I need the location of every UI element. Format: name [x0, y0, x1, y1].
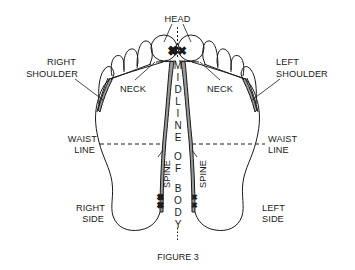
left-toe-base-line [204, 64, 247, 80]
right-spine-band [160, 61, 174, 212]
left-toe-3 [217, 49, 231, 70]
midline-letter: B [175, 183, 182, 194]
left-spine-x-mark-2: ✖ [191, 201, 198, 210]
midline-letter: F [175, 163, 181, 174]
waist-label-right: LINE [74, 145, 95, 155]
waist-label-left: WAIST [268, 134, 298, 144]
left-toe-4 [231, 55, 244, 76]
right-foot: ✖ ✖ ✖ [96, 35, 178, 230]
waist-label-right: WAIST [68, 134, 98, 144]
left-spine-band [181, 61, 195, 212]
midline-letter: L [175, 96, 181, 107]
right-side-label: RIGHT [76, 203, 105, 213]
right-shoulder-label: SHOULDER [26, 69, 78, 79]
neck-label-right: NECK [120, 84, 147, 94]
right-toe-4 [111, 55, 124, 76]
right-shoulder-label: RIGHT [47, 57, 76, 67]
right-side-label: SIDE [82, 214, 104, 224]
right-spine-x-mark-2: ✖ [157, 201, 164, 210]
reflexology-foot-diagram: ✖ ✖ ✖ ✖ ✖ ✖ M I D L I N E O F B O D Y [0, 0, 355, 270]
midline-letter: Y [175, 219, 182, 230]
spine-label-left: SPINE [198, 160, 208, 188]
right-toe-2 [137, 41, 152, 66]
figure-caption: FIGURE 3 [157, 252, 199, 262]
right-toe-base-line [108, 64, 151, 80]
left-side-label: SIDE [262, 214, 284, 224]
midline-letter: D [174, 84, 181, 95]
midline-letter: I [177, 72, 180, 83]
left-head-x-mark: ✖ [177, 44, 187, 58]
left-side-label: LEFT [262, 203, 285, 213]
left-toe-2 [203, 41, 218, 66]
waist-label-left: LINE [268, 145, 289, 155]
spine-label-right: SPINE [162, 160, 172, 188]
midline-letter: E [175, 132, 182, 143]
midline-letter: M [174, 60, 182, 71]
midline-letter: O [174, 195, 182, 206]
left-shoulder-label: SHOULDER [276, 69, 328, 79]
neck-label-left: NECK [207, 84, 234, 94]
midline-text: M I D L I N E O F B O D Y [174, 60, 182, 230]
midline-letter: O [174, 151, 182, 162]
midline-letter: I [177, 108, 180, 119]
midline-letter: N [174, 120, 181, 131]
right-toe-3 [124, 49, 138, 70]
head-label: HEAD [165, 14, 191, 24]
midline-letter: D [174, 207, 181, 218]
left-shoulder-label: LEFT [276, 57, 299, 67]
